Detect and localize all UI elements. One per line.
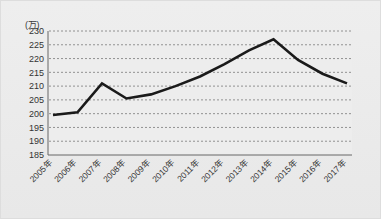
x-axis-tick-label: 2011年 — [175, 157, 201, 183]
y-axis-tick-label: 225 — [29, 40, 44, 50]
x-axis-tick-label: 2006年 — [52, 157, 79, 184]
y-axis-tick-label: 205 — [29, 95, 44, 105]
x-axis-tick-label: 2005年 — [28, 157, 55, 184]
x-axis-tick-label: 2007年 — [77, 157, 104, 184]
x-axis-tick-label: 2014年 — [248, 157, 275, 184]
x-axis-tick-label: 2016年 — [297, 157, 324, 184]
chart-svg: 230225220215210205200195190185 2005年2006… — [1, 1, 381, 219]
y-axis-tick-label: 200 — [29, 109, 44, 119]
x-axis-tick-labels: 2005年2006年2007年2008年2009年2010年2011年2012年… — [28, 157, 349, 184]
x-axis-tick-label: 2009年 — [126, 157, 153, 184]
chart-card: (万) 230225220215210205200195190185 2005年… — [0, 0, 381, 219]
x-axis-tick-label: 2015年 — [273, 157, 300, 184]
y-axis-tick-label: 220 — [29, 54, 44, 64]
y-axis-tick-labels: 230225220215210205200195190185 — [29, 26, 44, 160]
x-axis-tick-label: 2010年 — [150, 157, 177, 184]
y-axis-tick-label: 210 — [29, 81, 44, 91]
x-axis-tick-label: 2013年 — [224, 157, 251, 184]
x-axis-tick-label: 2017年 — [322, 157, 349, 184]
y-axis-tick-label: 215 — [29, 68, 44, 78]
x-axis-tick-label: 2008年 — [101, 157, 128, 184]
line-chart: 230225220215210205200195190185 2005年2006… — [1, 1, 381, 219]
y-axis-tick-label: 230 — [29, 26, 44, 36]
y-axis-tick-label: 190 — [29, 136, 44, 146]
x-axis-tick-label: 2012年 — [199, 157, 226, 184]
y-axis-tick-label: 185 — [29, 150, 44, 160]
y-axis-tick-label: 195 — [29, 123, 44, 133]
